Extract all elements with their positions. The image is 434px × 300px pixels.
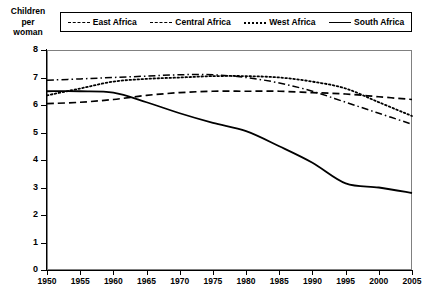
x-tick-label-2005: 2005 <box>392 276 432 286</box>
y-tick-label-0: 0 <box>22 265 38 274</box>
plot-area <box>47 50 412 270</box>
x-tick-1975 <box>213 270 214 275</box>
y-tick-label-5: 5 <box>22 128 38 137</box>
y-tick-3 <box>41 188 47 189</box>
legend-item-south-africa[interactable]: South Africa <box>329 17 404 27</box>
x-tick-1960 <box>113 270 114 275</box>
y-tick-label-8: 8 <box>22 45 38 54</box>
y-tick-label-7: 7 <box>22 73 38 82</box>
legend-label-west-africa: West Africa <box>269 17 315 27</box>
legend-swatch-dashed-icon <box>150 19 172 26</box>
y-tick-4 <box>41 160 47 161</box>
legend-swatch-dash-dot-icon <box>68 19 90 26</box>
legend-label-east-africa: East Africa <box>93 17 137 27</box>
line-chart: Children per woman East Africa Central A… <box>0 0 434 300</box>
y-tick-label-2: 2 <box>22 210 38 219</box>
x-tick-1965 <box>147 270 148 275</box>
x-tick-1955 <box>80 270 81 275</box>
x-tick-1995 <box>346 270 347 275</box>
legend-item-east-africa[interactable]: East Africa <box>68 17 137 27</box>
y-tick-label-1: 1 <box>22 238 38 247</box>
y-tick-5 <box>41 133 47 134</box>
y-tick-1 <box>41 243 47 244</box>
y-tick-7 <box>41 78 47 79</box>
y-tick-label-4: 4 <box>22 155 38 164</box>
x-tick-2005 <box>412 270 413 275</box>
y-axis-title-line3: woman <box>2 27 54 38</box>
y-axis-title-line2: per <box>2 17 54 28</box>
x-tick-1980 <box>246 270 247 275</box>
x-tick-1950 <box>47 270 48 275</box>
legend-label-south-africa: South Africa <box>354 17 404 27</box>
legend-swatch-solid-icon <box>329 19 351 26</box>
y-axis-title: Children per woman <box>2 6 54 38</box>
legend-swatch-dotted-icon <box>244 19 266 26</box>
x-tick-1970 <box>180 270 181 275</box>
x-tick-2000 <box>379 270 380 275</box>
y-tick-label-3: 3 <box>22 183 38 192</box>
x-tick-1990 <box>312 270 313 275</box>
y-axis-title-line1: Children <box>2 6 54 17</box>
chart-legend: East Africa Central Africa West Africa S… <box>60 12 412 32</box>
legend-item-west-africa[interactable]: West Africa <box>244 17 315 27</box>
legend-label-central-africa: Central Africa <box>175 17 230 27</box>
y-tick-label-6: 6 <box>22 100 38 109</box>
x-tick-1985 <box>279 270 280 275</box>
legend-item-central-africa[interactable]: Central Africa <box>150 17 230 27</box>
x-axis-line <box>46 270 413 271</box>
y-tick-2 <box>41 215 47 216</box>
y-tick-6 <box>41 105 47 106</box>
y-tick-8 <box>41 50 47 51</box>
